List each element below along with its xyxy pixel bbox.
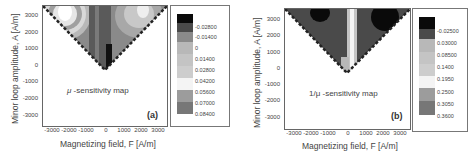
y-tick: 2000 xyxy=(254,32,280,38)
colorbar-swatch xyxy=(177,23,193,32)
colorbar-swatch xyxy=(177,102,193,114)
y-tick: -1000 xyxy=(12,78,38,84)
colorbar-swatch xyxy=(419,52,435,64)
panel-a: Minor loop amplitude, A [A/m] 3000 2000 … xyxy=(0,0,234,156)
plot-area: 1/μ -sensitivity map (b) xyxy=(284,8,411,130)
colorbar-label: 0.1400 xyxy=(437,64,454,70)
y-tick: 1000 xyxy=(12,45,38,51)
colorbar-swatch xyxy=(177,54,193,66)
y-tick: -1000 xyxy=(254,81,280,87)
colorbar-label: 0.04200 xyxy=(195,78,215,84)
y-tick: 0 xyxy=(254,65,280,71)
y-tick: 1000 xyxy=(254,49,280,55)
y-tick: -2000 xyxy=(12,95,38,101)
y-tick: 3000 xyxy=(254,16,280,22)
colorbar-label: 0.03000 xyxy=(437,40,457,46)
colorbar-label: 0 xyxy=(195,45,198,51)
panel-tag: (b) xyxy=(391,111,403,121)
x-axis-label: Magnetizing field, F [A/m] xyxy=(302,141,398,151)
colorbar-swatch xyxy=(177,32,193,42)
map-label: μ -sensitivity map xyxy=(67,86,129,95)
colorbar-label: 0.08400 xyxy=(195,111,215,117)
map-label: 1/μ -sensitivity map xyxy=(309,89,378,98)
x-axis-label: Magnetizing field, F [A/m] xyxy=(60,139,156,149)
colorbar-swatch xyxy=(419,39,435,52)
colorbar-swatch xyxy=(419,64,435,76)
panel-tag: (a) xyxy=(147,110,158,120)
colorbar-swatch xyxy=(419,76,435,88)
colorbar-swatch xyxy=(177,78,193,90)
colorbar-label: 0.02800 xyxy=(195,67,215,73)
colorbar-label: 0.08500 xyxy=(437,52,457,58)
y-tick: -3000 xyxy=(254,114,280,120)
colorbar-label: -0.01400 xyxy=(195,34,217,40)
colorbar-label: -0.02500 xyxy=(437,28,459,34)
colorbar-label: 0.05600 xyxy=(195,89,215,95)
x-tick: 3000 xyxy=(388,130,412,136)
colorbar-swatch xyxy=(177,90,193,102)
colorbar-label: 0.01400 xyxy=(195,56,215,62)
y-tick: -3000 xyxy=(12,112,38,118)
colorbar-swatch xyxy=(177,42,193,54)
plot-area: μ -sensitivity map (a) xyxy=(42,5,168,127)
colorbar-label: 0.1950 xyxy=(437,76,454,82)
colorbar-label: 0.3600 xyxy=(437,113,454,119)
colorbar: -0.02500 0.03000 0.08500 0.1400 0.1950 0… xyxy=(412,8,468,132)
colorbar-label: -0.02800 xyxy=(195,24,217,30)
colorbar-swatch xyxy=(419,29,435,39)
colorbar-label: 0.07000 xyxy=(195,100,215,106)
y-tick: 3000 xyxy=(12,12,38,18)
y-tick: 2000 xyxy=(12,29,38,35)
colorbar-label: 0.2500 xyxy=(437,89,454,95)
colorbar-swatch xyxy=(419,101,435,115)
y-tick: -2000 xyxy=(254,97,280,103)
contour-map xyxy=(43,6,167,126)
x-tick: 3000 xyxy=(146,127,170,133)
colorbar-swatch xyxy=(419,88,435,101)
colorbar-label: 0.3050 xyxy=(437,101,454,107)
colorbar-swatch xyxy=(177,14,193,23)
colorbar-swatch xyxy=(177,66,193,78)
y-tick: 0 xyxy=(12,62,38,68)
colorbar: -0.02800 -0.01400 0 0.01400 0.02800 0.04… xyxy=(170,5,230,127)
panel-b: Minor loop amplitude, A [A/m] 3000 2000 … xyxy=(234,0,468,156)
colorbar-swatch xyxy=(419,17,435,29)
